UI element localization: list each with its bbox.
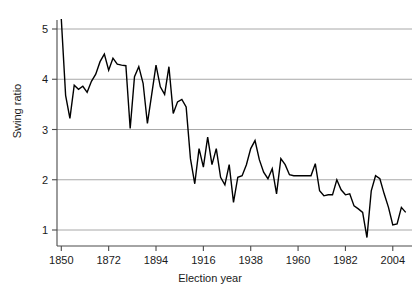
x-tick-label: 2004 bbox=[381, 254, 405, 266]
x-tick-label: 1872 bbox=[96, 254, 120, 266]
x-tick-label: 1916 bbox=[191, 254, 215, 266]
x-tick-label: 1938 bbox=[238, 254, 262, 266]
y-tick-label: 1 bbox=[42, 224, 48, 236]
x-tick-label: 1894 bbox=[144, 254, 168, 266]
line-chart-plot: 12345 18501872189419161938196019822004 bbox=[0, 0, 420, 302]
chart-figure: 12345 18501872189419161938196019822004 S… bbox=[0, 0, 420, 302]
y-tick-group: 12345 bbox=[42, 23, 57, 236]
data-series-line bbox=[61, 19, 405, 238]
x-tick-group: 18501872189419161938196019822004 bbox=[49, 246, 405, 266]
x-axis-label: Election year bbox=[0, 272, 420, 284]
y-tick-label: 3 bbox=[42, 124, 48, 136]
x-tick-label: 1850 bbox=[49, 254, 73, 266]
y-tick-label: 5 bbox=[42, 23, 48, 35]
y-tick-label: 4 bbox=[42, 73, 48, 85]
x-tick-label: 1960 bbox=[286, 254, 310, 266]
y-axis-label: Swing ratio bbox=[11, 66, 23, 156]
y-tick-label: 2 bbox=[42, 174, 48, 186]
x-tick-label: 1982 bbox=[333, 254, 357, 266]
